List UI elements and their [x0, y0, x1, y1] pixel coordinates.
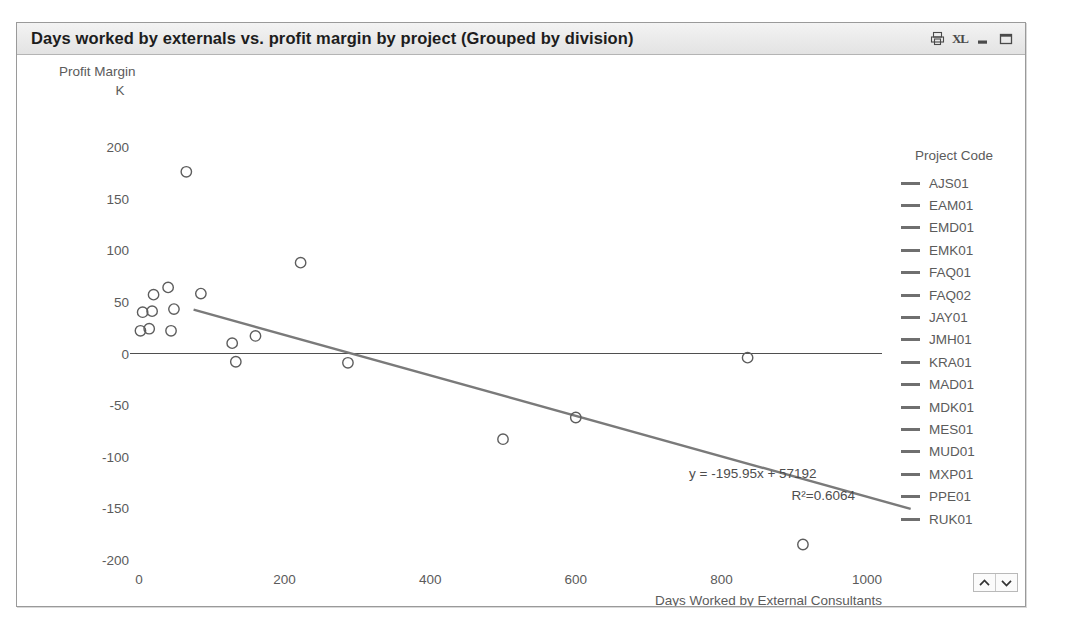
- legend-item-label: JMH01: [929, 332, 972, 347]
- legend-scroll-buttons[interactable]: [973, 573, 1018, 592]
- legend-item-faq01[interactable]: FAQ01: [901, 262, 1019, 284]
- legend-item-label: FAQ02: [929, 288, 971, 303]
- legend-swatch-icon: [901, 294, 920, 297]
- x-tick-label: 800: [710, 572, 733, 587]
- x-tick-label: 0: [135, 572, 143, 587]
- legend-item-jay01[interactable]: JAY01: [901, 306, 1019, 328]
- legend-swatch-icon: [901, 450, 920, 453]
- y-tick-label: -200: [102, 553, 129, 568]
- x-tick-label: 200: [273, 572, 296, 587]
- legend-item-label: MDK01: [929, 400, 974, 415]
- legend-items: AJS01EAM01EMD01EMK01FAQ01FAQ02JAY01JMH01…: [901, 172, 1019, 530]
- legend-swatch-icon: [901, 226, 920, 229]
- y-tick-label: 200: [106, 140, 129, 155]
- trendline-equation: y = -195.95x + 57192: [689, 466, 817, 481]
- x-axis-title: Days Worked by External Consultants: [655, 593, 882, 606]
- legend-item-mud01[interactable]: MUD01: [901, 441, 1019, 463]
- legend-item-faq02[interactable]: FAQ02: [901, 284, 1019, 306]
- legend-item-label: JAY01: [929, 310, 968, 325]
- scatter-point[interactable]: [798, 539, 808, 549]
- print-icon[interactable]: [929, 31, 945, 47]
- chart-window: Days worked by externals vs. profit marg…: [16, 22, 1026, 607]
- scatter-point[interactable]: [227, 338, 237, 348]
- legend-swatch-icon: [901, 428, 920, 431]
- x-tick-label: 400: [419, 572, 442, 587]
- y-tick-label: 100: [106, 243, 129, 258]
- scatter-point[interactable]: [163, 282, 173, 292]
- legend-swatch-icon: [901, 316, 920, 319]
- scatter-point[interactable]: [343, 358, 353, 368]
- legend-item-label: EMD01: [929, 220, 974, 235]
- excel-export-label: XL: [952, 31, 968, 47]
- title-bar: Days worked by externals vs. profit marg…: [17, 23, 1025, 55]
- legend-swatch-icon: [901, 383, 920, 386]
- scatter-point[interactable]: [147, 306, 157, 316]
- trendline-r-squared: R²=0.6064: [792, 488, 856, 503]
- maximize-icon[interactable]: [998, 31, 1014, 47]
- legend-item-label: EAM01: [929, 198, 973, 213]
- scatter-point[interactable]: [169, 304, 179, 314]
- x-tick-label: 600: [565, 572, 588, 587]
- legend-swatch-icon: [901, 406, 920, 409]
- legend-item-label: RUK01: [929, 512, 973, 527]
- legend-item-label: PPE01: [929, 489, 971, 504]
- window-title: Days worked by externals vs. profit marg…: [31, 29, 634, 48]
- legend-item-label: MXP01: [929, 467, 973, 482]
- legend-item-label: FAQ01: [929, 265, 971, 280]
- y-tick-label: -50: [109, 398, 129, 413]
- legend-swatch-icon: [901, 473, 920, 476]
- legend-item-label: MES01: [929, 422, 973, 437]
- scatter-point[interactable]: [166, 326, 176, 336]
- minimize-icon[interactable]: [975, 31, 991, 47]
- legend-item-jmh01[interactable]: JMH01: [901, 329, 1019, 351]
- legend-swatch-icon: [901, 204, 920, 207]
- y-tick-label: 50: [114, 295, 129, 310]
- x-tick-label: 1000: [852, 572, 882, 587]
- legend-scroll-up-icon[interactable]: [974, 574, 995, 591]
- y-tick-label: 0: [121, 347, 129, 362]
- legend-item-ajs01[interactable]: AJS01: [901, 172, 1019, 194]
- scatter-point[interactable]: [295, 257, 305, 267]
- scatter-point[interactable]: [148, 289, 158, 299]
- excel-export-icon[interactable]: XL: [952, 31, 968, 47]
- legend-item-label: AJS01: [929, 176, 969, 191]
- scatter-point[interactable]: [181, 167, 191, 177]
- legend-item-ruk01[interactable]: RUK01: [901, 508, 1019, 530]
- scatter-point[interactable]: [196, 288, 206, 298]
- scatter-point[interactable]: [498, 434, 508, 444]
- legend-title: Project Code: [915, 148, 1019, 163]
- legend-item-mdk01[interactable]: MDK01: [901, 396, 1019, 418]
- legend-item-mes01[interactable]: MES01: [901, 418, 1019, 440]
- y-axis-unit: K: [115, 83, 124, 98]
- title-bar-buttons: XL: [929, 31, 1014, 47]
- legend-scroll-down-icon[interactable]: [995, 574, 1017, 591]
- legend-item-mad01[interactable]: MAD01: [901, 374, 1019, 396]
- legend-swatch-icon: [901, 338, 920, 341]
- legend-swatch-icon: [901, 182, 920, 185]
- legend-item-ppe01[interactable]: PPE01: [901, 485, 1019, 507]
- legend-item-eam01[interactable]: EAM01: [901, 194, 1019, 216]
- scatter-chart: Profit MarginK200150100500-50-100-150-20…: [17, 54, 1023, 606]
- legend-swatch-icon: [901, 249, 920, 252]
- legend-swatch-icon: [901, 361, 920, 364]
- legend-item-label: EMK01: [929, 243, 973, 258]
- y-axis-title: Profit Margin: [59, 64, 136, 79]
- y-tick-label: -100: [102, 450, 129, 465]
- legend-item-label: MAD01: [929, 377, 974, 392]
- legend-swatch-icon: [901, 495, 920, 498]
- y-tick-label: 150: [106, 192, 129, 207]
- y-tick-label: -150: [102, 501, 129, 516]
- scatter-point[interactable]: [231, 357, 241, 367]
- legend-item-label: KRA01: [929, 355, 972, 370]
- chart-legend: Project Code AJS01EAM01EMD01EMK01FAQ01FA…: [901, 148, 1019, 530]
- legend-item-emk01[interactable]: EMK01: [901, 239, 1019, 261]
- legend-item-kra01[interactable]: KRA01: [901, 351, 1019, 373]
- legend-swatch-icon: [901, 518, 920, 521]
- scatter-point[interactable]: [250, 331, 260, 341]
- legend-item-mxp01[interactable]: MXP01: [901, 463, 1019, 485]
- scatter-point[interactable]: [137, 307, 147, 317]
- chart-plot-area: Profit MarginK200150100500-50-100-150-20…: [17, 54, 1025, 606]
- legend-swatch-icon: [901, 271, 920, 274]
- legend-item-label: MUD01: [929, 444, 975, 459]
- legend-item-emd01[interactable]: EMD01: [901, 217, 1019, 239]
